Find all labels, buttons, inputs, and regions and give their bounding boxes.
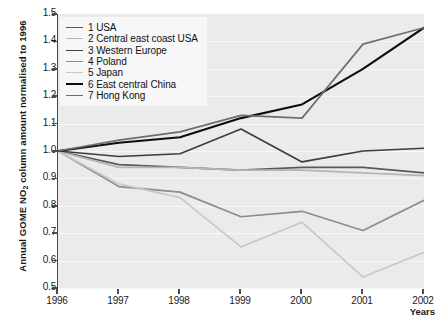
x-tick-label: 1999: [217, 295, 263, 306]
legend-item-e-c-china[interactable]: 6 East central China: [66, 78, 198, 89]
legend-item-usa[interactable]: 1 USA: [66, 22, 198, 33]
x-tick: [361, 289, 363, 294]
series-line-w-europe: [58, 129, 424, 162]
y-tick-label: 0.9: [16, 171, 56, 182]
x-tick: [422, 289, 424, 294]
legend-label-hong-kong: 7 Hong Kong: [88, 90, 145, 101]
y-tick-label: 0.8: [16, 199, 56, 210]
legend-label-poland: 4 Poland: [88, 56, 127, 67]
x-tick-label: 2002: [400, 295, 443, 306]
legend-label-ce-coast-usa: 2 Central east coast USA: [88, 33, 198, 44]
y-tick-label: 1.3: [16, 62, 56, 73]
legend-label-e-c-china: 6 East central China: [88, 79, 176, 90]
y-tick-label: 0.6: [16, 254, 56, 265]
y-tick-label: 1.0: [16, 144, 56, 155]
x-tick-label: 2001: [339, 295, 385, 306]
legend-swatch-hong-kong: [66, 95, 83, 96]
y-tick-label: 1.4: [16, 34, 56, 45]
legend-label-w-europe: 3 Western Europe: [88, 45, 167, 56]
y-tick-label: 1.5: [16, 7, 56, 18]
legend-label-usa: 1 USA: [88, 22, 116, 33]
x-tick-label: 2000: [278, 295, 324, 306]
legend: 1 USA2 Central east coast USA3 Western E…: [60, 17, 207, 106]
y-tick-label: 1.1: [16, 117, 56, 128]
x-tick-label: 1997: [95, 295, 141, 306]
legend-item-w-europe[interactable]: 3 Western Europe: [66, 45, 198, 56]
legend-label-japan: 5 Japan: [88, 67, 123, 78]
legend-item-hong-kong[interactable]: 7 Hong Kong: [66, 90, 198, 101]
x-tick: [117, 289, 119, 294]
x-tick: [300, 289, 302, 294]
x-axis-title: Years: [410, 306, 435, 317]
legend-swatch-e-c-china: [66, 83, 83, 85]
x-tick-label: 1998: [156, 295, 202, 306]
x-tick: [178, 289, 180, 294]
x-tick: [56, 289, 58, 294]
legend-swatch-japan: [66, 72, 83, 73]
y-tick-label: 1.2: [16, 89, 56, 100]
legend-item-japan[interactable]: 5 Japan: [66, 67, 198, 78]
legend-swatch-w-europe: [66, 50, 83, 51]
x-tick-label: 1996: [34, 295, 80, 306]
gridline: [58, 288, 424, 289]
y-tick-label: 0.7: [16, 226, 56, 237]
legend-item-poland[interactable]: 4 Poland: [66, 56, 198, 67]
legend-item-ce-coast-usa[interactable]: 2 Central east coast USA: [66, 33, 198, 44]
legend-swatch-ce-coast-usa: [66, 38, 83, 39]
y-axis-title-sub: 2: [22, 186, 29, 190]
legend-swatch-usa: [66, 27, 83, 28]
y-tick-label: 0.5: [16, 281, 56, 292]
legend-swatch-poland: [66, 61, 83, 62]
x-tick: [239, 289, 241, 294]
